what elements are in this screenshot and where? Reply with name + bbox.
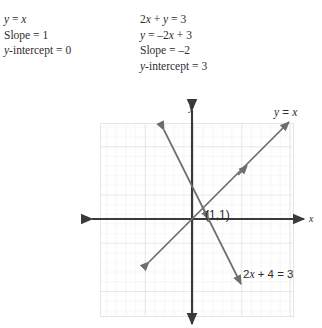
graph-svg [0, 98, 322, 328]
x-axis-label: x [309, 213, 313, 224]
equation-column-right: 2x + y = 3 y = –2x + 3 Slope = –2 y-inte… [140, 12, 207, 74]
worked-example-graph-page: y = x Slope = 1 y-intercept = 0 2x + y =… [0, 0, 322, 328]
equation-line: y = x [4, 12, 71, 28]
y-intercept-line: y-intercept = 3 [140, 59, 207, 75]
equation-line-standard: 2x + y = 3 [140, 12, 207, 28]
y-axis-label: y [189, 102, 193, 113]
equation-line-slope-intercept: y = –2x + 3 [140, 28, 207, 44]
slope-line: Slope = 1 [4, 28, 71, 44]
line-label-y-equals-x: y = x [274, 106, 297, 118]
line-label-second-equation: 2x + 4 = 3 [243, 268, 294, 280]
y-intercept-line: y-intercept = 0 [4, 43, 71, 59]
slope-line: Slope = –2 [140, 43, 207, 59]
equation-column-left: y = x Slope = 1 y-intercept = 0 [4, 12, 71, 59]
coordinate-graph: y x y = x (1,1) 2x + 4 = 3 [0, 98, 322, 328]
intersection-point-label: (1,1) [205, 208, 230, 222]
